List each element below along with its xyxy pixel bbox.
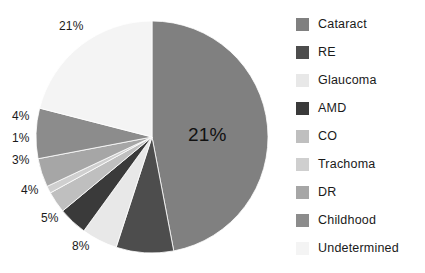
legend-swatch-icon — [296, 242, 309, 255]
legend-item-label: AMD — [318, 101, 346, 115]
legend-swatch-icon — [296, 74, 309, 87]
legend-item-label: CO — [318, 129, 337, 143]
legend-swatch-icon — [296, 186, 309, 199]
legend-swatch-icon — [296, 46, 309, 59]
legend-swatch-icon — [296, 18, 309, 31]
legend-item-label: Childhood — [318, 213, 376, 227]
slice-label-co: 3% — [12, 153, 30, 167]
legend-item-re[interactable]: RE — [296, 38, 425, 66]
pie-slices — [36, 21, 268, 253]
legend-item-childhood[interactable]: Childhood — [296, 206, 425, 234]
legend-item-undetermined[interactable]: Undetermined — [296, 234, 425, 262]
legend-item-cataract[interactable]: Cataract — [296, 10, 425, 38]
legend-item-co[interactable]: CO — [296, 122, 425, 150]
legend-item-label: Trachoma — [318, 157, 375, 171]
legend-swatch-icon — [296, 158, 309, 171]
pie-plot-area: 21% 8% 5% 4% 3% 1% 4% 21% — [0, 0, 290, 273]
legend-item-amd[interactable]: AMD — [296, 94, 425, 122]
legend-item-label: Cataract — [318, 17, 367, 31]
pie-svg — [0, 0, 290, 273]
slice-label-trachoma: 1% — [12, 131, 30, 145]
legend-swatch-icon — [296, 130, 309, 143]
legend-item-glaucoma[interactable]: Glaucoma — [296, 66, 425, 94]
slice-label-undetermined: 21% — [59, 19, 84, 33]
legend-swatch-icon — [296, 214, 309, 227]
legend-item-label: DR — [318, 185, 336, 199]
slice-label-dr: 4% — [12, 109, 30, 123]
pie-chart: 21% 8% 5% 4% 3% 1% 4% 21% CataractREGlau… — [0, 0, 425, 273]
legend-item-label: RE — [318, 45, 336, 59]
slice-label-re: 8% — [72, 239, 90, 253]
slice-label-cataract: 21% — [188, 124, 227, 146]
slice-label-glaucoma: 5% — [41, 211, 59, 225]
slice-label-amd: 4% — [21, 183, 39, 197]
legend-swatch-icon — [296, 102, 309, 115]
legend: CataractREGlaucomaAMDCOTrachomaDRChildho… — [296, 10, 425, 262]
legend-item-dr[interactable]: DR — [296, 178, 425, 206]
legend-item-trachoma[interactable]: Trachoma — [296, 150, 425, 178]
legend-item-label: Glaucoma — [318, 73, 377, 87]
legend-item-label: Undetermined — [318, 241, 399, 255]
